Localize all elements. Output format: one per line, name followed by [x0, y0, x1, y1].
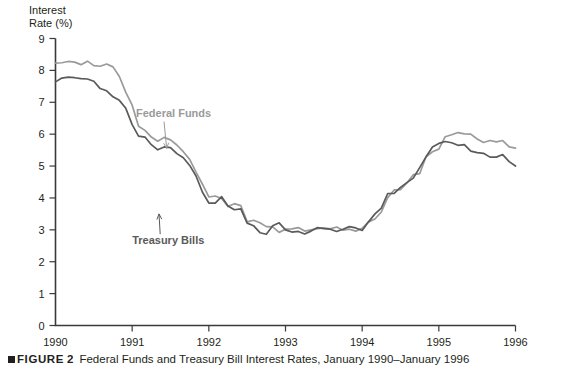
y-tick-label: 0: [38, 320, 44, 332]
figure-caption-text: Federal Funds and Treasury Bill Interest…: [79, 353, 469, 365]
y-tick-label: 6: [38, 128, 44, 140]
y-axis-ticks: 0123456789: [38, 33, 55, 332]
figure-square-icon: [8, 356, 15, 363]
x-tick-label: 1990: [43, 336, 67, 348]
annotation-leader-line: [159, 214, 160, 234]
y-tick-label: 5: [38, 160, 44, 172]
x-tick-label: 1993: [273, 336, 297, 348]
x-tick-label: 1994: [350, 336, 374, 348]
y-tick-label: 2: [38, 256, 44, 268]
y-tick-label: 9: [38, 33, 44, 45]
x-tick-label: 1992: [197, 336, 221, 348]
y-tick-label: 7: [38, 96, 44, 108]
x-axis-ticks: 1990199119921993199419951996: [43, 326, 527, 348]
figure-caption: FIGURE2Federal Funds and Treasury Bill I…: [8, 352, 568, 366]
series-annotations: Federal FundsTreasury Bills: [132, 107, 211, 247]
series-line-treasury-bills: [56, 77, 516, 234]
figure-number: 2: [67, 353, 73, 365]
figure-label: FIGURE: [17, 353, 64, 365]
y-tick-label: 8: [38, 64, 44, 76]
axis-lines: [56, 39, 516, 326]
line-chart: 0123456789 1990199119921993199419951996 …: [0, 0, 571, 352]
x-tick-label: 1996: [503, 336, 527, 348]
x-tick-label: 1995: [427, 336, 451, 348]
series-line-federal-funds: [56, 61, 516, 232]
y-tick-label: 1: [38, 288, 44, 300]
x-tick-label: 1991: [120, 336, 144, 348]
y-tick-label: 3: [38, 224, 44, 236]
series-lines: [56, 61, 516, 234]
annotation-label-treasury-bills: Treasury Bills: [132, 234, 204, 246]
y-tick-label: 4: [38, 192, 44, 204]
annotation-label-federal-funds: Federal Funds: [136, 107, 211, 119]
figure-container: InterestRate (%) 0123456789 199019911992…: [0, 0, 571, 372]
